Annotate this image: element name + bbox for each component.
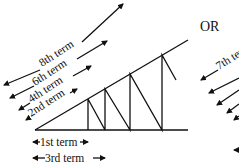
term-arrow-3rd: 3rd term [33,152,105,163]
left-figure: 8th term 6th term 4th term 2nd term 1st … [4,4,188,163]
right-arrow-3 [217,90,239,105]
label-1st-term: 1st term [40,136,77,148]
or-separator: OR [200,19,220,34]
right-figure: 7th term [201,41,239,150]
zigzag-path [88,55,176,130]
right-arrow-4 [227,104,239,113]
term-arrow-1st: 1st term [33,136,88,148]
label-3rd-term: 3rd term [45,152,84,163]
right-arrow-5 [234,116,239,120]
term-arrow-8th: 8th term [4,4,123,85]
diagram-canvas: 8th term 6th term 4th term 2nd term 1st … [0,0,239,163]
label-7th-term: 7th term [214,41,239,72]
right-arrow-2 [209,78,239,93]
